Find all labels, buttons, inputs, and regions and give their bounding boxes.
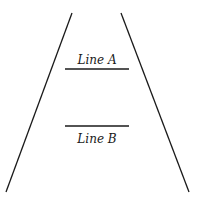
line-a-label: Line A (76, 53, 116, 67)
right-converging-line (121, 13, 189, 192)
line-b-label: Line B (76, 132, 116, 146)
ponzo-diagram: Line A Line B (0, 0, 202, 205)
left-converging-line (6, 13, 72, 192)
